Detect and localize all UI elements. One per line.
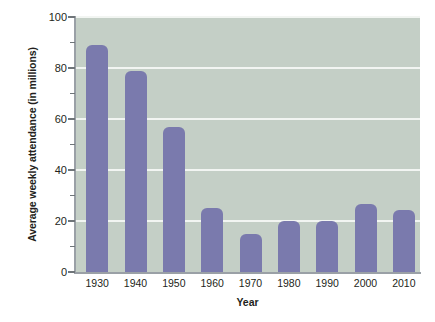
bar-1960[interactable]: [201, 208, 223, 272]
bar-1950[interactable]: [163, 127, 185, 272]
y-tick-30: [70, 195, 75, 197]
x-axis-line: [74, 272, 421, 274]
y-tick-50: [70, 144, 75, 146]
y-tick-label-20: 20: [27, 216, 67, 227]
x-axis-title: Year: [75, 296, 420, 308]
x-tick-label-1930: 1930: [77, 277, 117, 289]
y-tick-100: [68, 16, 75, 18]
bar-1940[interactable]: [125, 71, 147, 272]
bar-2000[interactable]: [355, 204, 377, 272]
y-tick-label-80: 80: [27, 63, 67, 74]
x-tick-label-1950: 1950: [154, 277, 194, 289]
y-tick-10: [70, 246, 75, 248]
bar-1980[interactable]: [278, 221, 300, 272]
x-tick-label-2010: 2010: [384, 277, 424, 289]
y-tick-0: [68, 271, 75, 273]
y-tick-40: [68, 169, 75, 171]
bar-1970[interactable]: [240, 234, 262, 272]
x-tick-label-1940: 1940: [116, 277, 156, 289]
y-tick-20: [68, 220, 75, 222]
y-tick-label-60: 60: [27, 114, 67, 125]
x-tick-label-1970: 1970: [231, 277, 271, 289]
y-tick-80: [68, 67, 75, 69]
y-tick-label-40: 40: [27, 165, 67, 176]
x-tick-label-1990: 1990: [307, 277, 347, 289]
y-tick-label-0: 0: [27, 267, 67, 278]
bar-chart-figure: Average weekly attendance (in millions) …: [0, 0, 435, 322]
y-tick-70: [70, 93, 75, 95]
x-tick-label-2000: 2000: [346, 277, 386, 289]
plot-area: [75, 17, 420, 272]
x-tick-label-1960: 1960: [192, 277, 232, 289]
gridline-100: [75, 16, 420, 18]
gridline-80: [75, 67, 420, 69]
y-tick-60: [68, 118, 75, 120]
y-tick-90: [70, 42, 75, 44]
x-tick-label-1980: 1980: [269, 277, 309, 289]
bar-1990[interactable]: [316, 221, 338, 272]
y-tick-label-100: 100: [27, 12, 67, 23]
bar-2010[interactable]: [393, 210, 415, 272]
bar-1930[interactable]: [86, 45, 108, 272]
y-axis-title: Average weekly attendance (in millions): [22, 17, 42, 272]
